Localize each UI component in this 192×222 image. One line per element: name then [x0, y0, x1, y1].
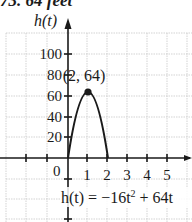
y-axis-title: h(t)	[34, 12, 57, 30]
parabola-curve	[68, 92, 108, 158]
y-tick-label: 60	[47, 88, 62, 104]
equation-lhs: h(t) = −16t	[61, 189, 131, 207]
y-tick-label: 40	[47, 109, 62, 125]
svg-text:h(t) = −16t2 + 64t: h(t) = −16t2 + 64t	[61, 188, 174, 207]
y-axis-arrow-icon	[65, 18, 72, 29]
origin-label: 0	[53, 163, 61, 179]
x-axis-arrow-icon	[184, 155, 192, 161]
x-tick-label: 2	[103, 167, 111, 183]
x-tick-label: 3	[123, 167, 131, 183]
vertex-point	[84, 88, 91, 95]
y-tick-label: 100	[40, 46, 63, 62]
equation-rhs: + 64t	[136, 189, 174, 206]
vertex-label: (2, 64)	[63, 67, 106, 85]
x-tick-label: 1	[83, 167, 91, 183]
parabola-chart: h(t) 100 80 60 40 20 0 1 2 3 4 5 (2, 64)…	[0, 0, 192, 222]
y-tick-label: 80	[47, 67, 62, 83]
x-tick-label: 5	[163, 167, 171, 183]
equation-label: h(t) = −16t2 + 64t	[60, 187, 192, 207]
x-tick-label: 4	[143, 167, 151, 183]
y-tick-label: 20	[47, 129, 62, 145]
